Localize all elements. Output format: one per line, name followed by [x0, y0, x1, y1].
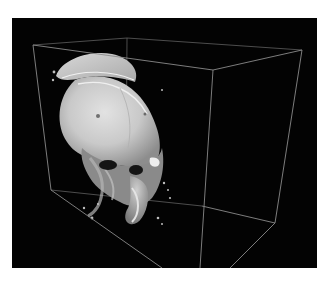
orbit-left — [99, 160, 117, 170]
render-viewport[interactable] — [12, 18, 317, 268]
skull-cranium — [60, 76, 160, 166]
volume-render — [12, 18, 317, 268]
orbit-right — [129, 165, 143, 175]
